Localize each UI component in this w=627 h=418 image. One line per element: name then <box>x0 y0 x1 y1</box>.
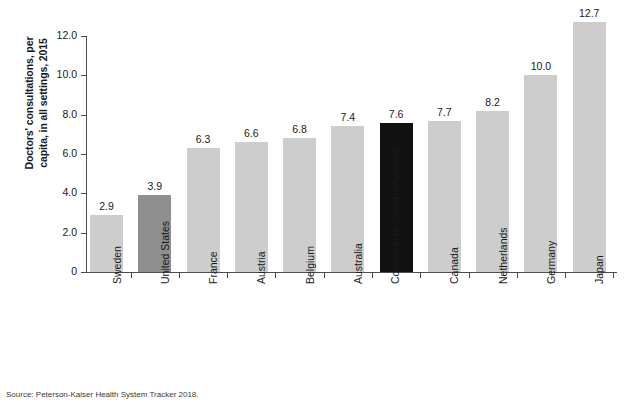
y-axis-tick-label: 12.0 <box>57 29 77 42</box>
x-axis-category-label-line: Austria <box>255 251 268 284</box>
x-axis-category-label-line: Germany <box>545 241 558 284</box>
y-axis-title-line-2: capita, in all settings, 2015 <box>36 38 50 168</box>
source-note: Source: Peterson-Kaiser Health System Tr… <box>6 390 199 400</box>
x-axis-category-label: Comparable CountryAverage <box>389 147 402 284</box>
x-axis-tick <box>179 273 180 278</box>
y-axis-tick: 4.0 <box>81 193 86 194</box>
x-axis-category-label-line: Australia <box>352 243 365 284</box>
y-axis-tick-label: 8.0 <box>62 108 77 121</box>
x-axis-tick <box>420 273 421 278</box>
bar-value-label: 6.8 <box>292 123 307 135</box>
y-axis-title-line-1: Doctors' consultations, per <box>22 37 36 170</box>
y-axis-tick-label: 0 <box>71 265 77 278</box>
x-axis-tick <box>324 273 325 278</box>
bar-value-label: 12.7 <box>579 7 599 19</box>
x-axis-category-label-line: Netherlands <box>497 227 510 284</box>
y-axis-tick: 2.0 <box>81 233 86 234</box>
bar-value-label: 6.6 <box>244 127 259 139</box>
x-axis-category-label: Canada <box>448 247 461 284</box>
x-axis-category-label-line: Average <box>389 147 402 186</box>
x-axis-tick <box>131 273 132 278</box>
x-axis-category-label-line: Sweden <box>111 246 124 284</box>
x-axis-tick <box>275 273 276 278</box>
bar-value-label: 7.6 <box>389 108 404 120</box>
x-axis-category-label: Sweden <box>111 246 124 284</box>
x-axis-category-label: Netherlands <box>497 227 510 284</box>
y-axis-tick-label: 2.0 <box>62 226 77 239</box>
y-axis-tick: 12.0 <box>81 36 86 37</box>
plot-area: 02.04.06.08.010.012.0 2.93.96.36.66.87.4… <box>86 36 617 272</box>
x-axis-category-label-line: Japan <box>593 255 606 284</box>
bar-value-label: 3.9 <box>147 180 162 192</box>
bar: 12.7 <box>573 22 606 272</box>
x-axis-category-label-line: Canada <box>448 247 461 284</box>
x-axis-category-label: Germany <box>545 241 558 284</box>
x-axis-category-label-line: Belgium <box>304 246 317 284</box>
x-axis-tick <box>613 273 614 278</box>
bar-value-label: 10.0 <box>531 60 551 72</box>
x-axis-category-label: Austria <box>255 251 268 284</box>
y-axis-tick: 10.0 <box>81 75 86 76</box>
x-axis-category-label: Australia <box>352 243 365 284</box>
bar-value-label: 8.2 <box>485 96 500 108</box>
x-axis-category-label: Belgium <box>304 246 317 284</box>
bar-value-label: 7.7 <box>437 106 452 118</box>
x-axis-category-label: Japan <box>593 255 606 284</box>
bar-value-label: 7.4 <box>341 111 356 123</box>
y-axis-tick: 8.0 <box>81 115 86 116</box>
bar-value-label: 6.3 <box>196 133 211 145</box>
y-axis-tick-label: 6.0 <box>62 147 77 160</box>
bar-value-label: 2.9 <box>99 200 114 212</box>
y-axis-line <box>86 36 87 273</box>
x-axis-tick <box>372 273 373 278</box>
y-axis-tick-label: 10.0 <box>57 68 77 81</box>
y-axis-tick-label: 4.0 <box>62 186 77 199</box>
x-axis-category-label-line: United States <box>159 221 172 284</box>
x-axis-category-label-line: France <box>207 251 220 284</box>
x-axis-tick <box>227 273 228 278</box>
y-axis-tick: 0 <box>81 272 86 273</box>
x-axis-tick <box>469 273 470 278</box>
y-axis-tick: 6.0 <box>81 154 86 155</box>
x-axis-tick <box>517 273 518 278</box>
x-axis-category-label-line: Comparable Country <box>389 187 402 284</box>
chart-figure: Doctors' consultations, per capita, in a… <box>0 0 627 418</box>
x-axis-category-label: United States <box>159 221 172 284</box>
y-axis-title: Doctors' consultations, per capita, in a… <box>19 3 53 203</box>
x-axis-tick <box>565 273 566 278</box>
x-axis-category-label: France <box>207 251 220 284</box>
